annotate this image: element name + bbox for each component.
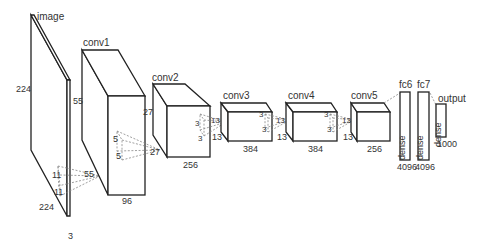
conv3-kernel-w-label: 3	[262, 125, 267, 134]
conv1-label: conv1	[83, 37, 110, 48]
fc6-label: fc6	[399, 79, 413, 90]
output-label: output	[438, 93, 466, 104]
image-width-label: 224	[39, 202, 54, 212]
conv1-front-face	[108, 96, 145, 195]
alexnet-diagram: image 224 224 3 11 11 conv1 55 55 96 5 5…	[0, 0, 478, 249]
conv3-width-label: 13	[212, 132, 222, 142]
conv3-height-label: 13	[211, 116, 220, 125]
image-label: image	[37, 11, 65, 22]
conv3-depth-label: 384	[243, 144, 258, 154]
conv5-to-fc6-connector	[384, 93, 400, 103]
image-front-face	[67, 80, 70, 216]
fc7-type-label: dense	[415, 135, 425, 160]
conv1-height-label: 55	[73, 96, 83, 106]
image-kernel-h-label: 11	[52, 170, 61, 180]
conv4-label: conv4	[288, 90, 315, 101]
conv5-top-face	[351, 103, 390, 112]
fc7-units-label: 4096	[415, 162, 435, 172]
conv2-kernel-w-label: 3	[198, 134, 203, 143]
conv2-height-label: 27	[143, 107, 153, 117]
conv4-kernel-h-label: 3	[324, 110, 329, 119]
conv2-kernel-h-label: 3	[195, 119, 200, 128]
conv4-height-label: 13	[276, 116, 285, 125]
image-height-label: 224	[16, 84, 31, 94]
conv5-front-face	[357, 112, 390, 141]
conv1-depth-label: 96	[122, 196, 132, 206]
output-units-label: 1000	[437, 139, 457, 149]
conv1-kernel-h-label: 5	[113, 134, 118, 144]
conv5-label: conv5	[351, 90, 378, 101]
conv1-width-label: 55	[84, 169, 94, 179]
image-kernel-w-label: 11	[54, 187, 63, 197]
conv5-height-label: 13	[342, 116, 351, 125]
fc6-type-label: dense	[397, 135, 407, 160]
conv2-depth-label: 256	[183, 160, 198, 170]
conv3-kernel-h-label: 3	[259, 110, 264, 119]
conv2-front-face	[167, 106, 210, 157]
conv1-kernel-w-label: 5	[116, 151, 121, 161]
conv4-kernel-w-label: 3	[327, 125, 332, 134]
fc7-label: fc7	[417, 79, 431, 90]
conv4-depth-label: 384	[308, 144, 323, 154]
conv3-top-face	[221, 103, 272, 112]
conv5-depth-label: 256	[367, 144, 382, 154]
conv2-width-label: 27	[150, 147, 160, 157]
conv4-width-label: 13	[277, 132, 287, 142]
conv2-label: conv2	[152, 72, 179, 83]
fc7-to-output-connector	[430, 93, 436, 105]
conv3-label: conv3	[223, 90, 250, 101]
conv5-width-label: 13	[343, 132, 353, 142]
image-depth-label: 3	[68, 231, 73, 241]
conv4-top-face	[286, 103, 337, 112]
